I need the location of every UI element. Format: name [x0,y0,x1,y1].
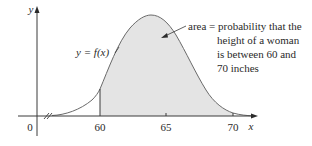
normal-distribution-figure: 0 60 65 70 x y y = f(x) area = probabili… [0,0,312,146]
y-axis-label: y [28,3,34,15]
origin-label: 0 [27,121,33,133]
annotation-line-4: 70 inches [217,62,259,74]
y-axis-arrow-icon [35,6,40,13]
x-axis-label: x [248,120,254,132]
annotation-line-3: is between 60 and [217,48,297,60]
x-axis-arrow-icon [251,114,258,119]
annotation-line-2: height of a woman [217,34,300,46]
tick-label-70: 70 [228,121,240,133]
chart-canvas: 0 60 65 70 x y y = f(x) area = probabili… [0,0,312,146]
annotation-line-1: area = probability that the [188,20,302,32]
tick-label-65: 65 [161,121,173,133]
curve-label: y = f(x) [75,46,109,59]
tick-label-60: 60 [95,121,107,133]
